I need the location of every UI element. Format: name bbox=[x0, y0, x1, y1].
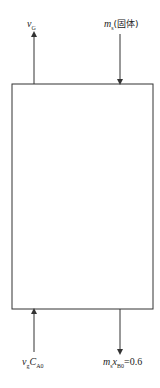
gas-outlet-label: vG bbox=[27, 19, 36, 31]
flow-diagram bbox=[0, 0, 160, 388]
vessel-box bbox=[12, 84, 153, 309]
solid-outlet-label: msxB0=0.6 bbox=[103, 357, 142, 369]
gas-inlet-label: vgCA0 bbox=[22, 357, 43, 369]
solid-inlet-label: ms(固体) bbox=[104, 19, 139, 31]
